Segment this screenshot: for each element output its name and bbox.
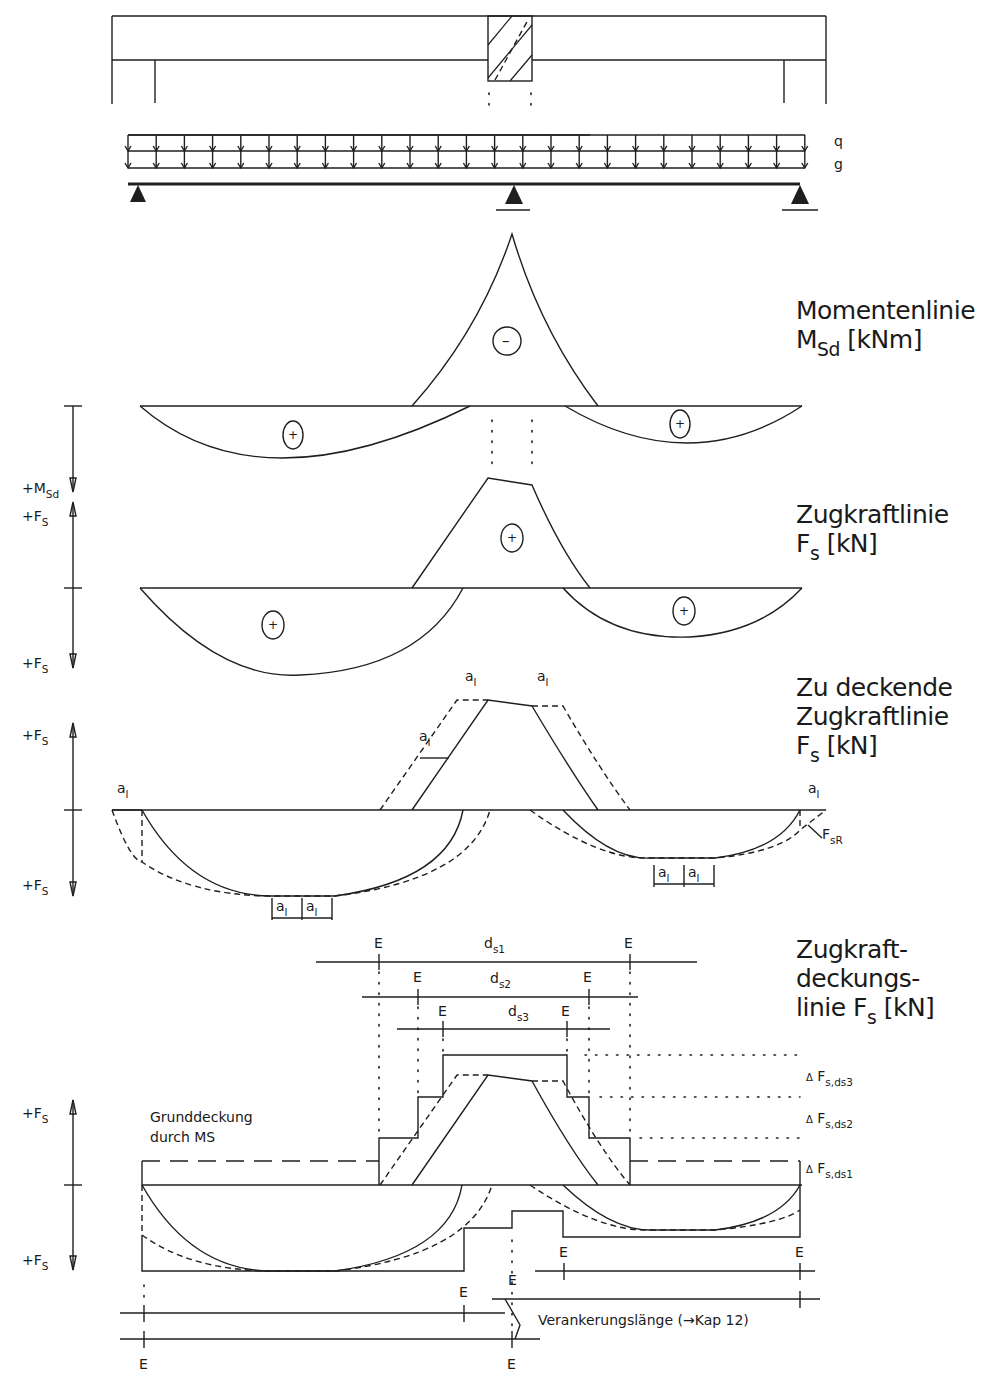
- bar-label-ds2: ds2: [490, 970, 511, 986]
- delta-label-ds2: Δ Fs,ds2: [806, 1110, 853, 1126]
- base-cover-note: Grunddeckung durch MS: [150, 1107, 253, 1147]
- end-marker: E: [583, 969, 592, 985]
- bar-label-ds1: ds1: [484, 935, 505, 951]
- to-cover-title: Zu deckende Zugkraftlinie Fs [kN]: [796, 673, 952, 762]
- shift-label: al: [465, 668, 477, 684]
- shift-label: al: [808, 780, 820, 796]
- moment-diagram: [140, 234, 802, 470]
- end-marker: E: [139, 1356, 148, 1372]
- end-marker: E: [559, 1244, 568, 1260]
- axis-label-msd: +MSd: [22, 480, 59, 496]
- shift-label: al: [306, 898, 318, 914]
- moment-title: Momentenlinie MSd [kNm]: [796, 296, 975, 356]
- static-system: [128, 184, 818, 210]
- shift-label: al: [117, 780, 129, 796]
- left-axes: [64, 406, 82, 1270]
- end-marker: E: [795, 1244, 804, 1260]
- end-marker: E: [624, 935, 633, 951]
- end-marker: E: [438, 1003, 447, 1019]
- end-marker: E: [374, 935, 383, 951]
- shift-label: al: [419, 728, 431, 744]
- load-label-g: g: [834, 156, 843, 172]
- distributed-load: [125, 135, 808, 168]
- shifted-tension-diagram: [112, 700, 826, 920]
- axis-label-fs: +FS: [22, 508, 48, 524]
- axis-label-fs: +FS: [22, 1252, 48, 1268]
- tension-title: Zugkraftlinie Fs [kN]: [796, 500, 949, 560]
- shift-label: al: [688, 864, 700, 880]
- bar-label-ds3: ds3: [508, 1003, 529, 1019]
- axis-label-fs: +FS: [22, 1105, 48, 1121]
- end-marker: E: [561, 1003, 570, 1019]
- shift-label: al: [276, 898, 288, 914]
- shift-label: al: [658, 864, 670, 880]
- load-label-q: q: [834, 133, 843, 149]
- end-marker: E: [413, 969, 422, 985]
- support-right-icon: [791, 185, 809, 204]
- tension-diagram: [140, 478, 802, 675]
- fsr-label: FsR: [822, 826, 843, 842]
- sign-negative: –: [502, 333, 510, 349]
- support-middle-icon: [505, 185, 523, 204]
- anchorage-note: Verankerungslänge (→Kap 12): [538, 1312, 749, 1328]
- delta-label-ds3: Δ Fs,ds3: [806, 1068, 853, 1084]
- support-left-icon: [130, 185, 146, 202]
- axis-label-fs: +FS: [22, 655, 48, 671]
- end-marker: E: [508, 1272, 517, 1288]
- shift-label: al: [537, 668, 549, 684]
- end-marker: E: [459, 1284, 468, 1300]
- coverage-diagram: [120, 954, 820, 1348]
- delta-label-ds1: Δ Fs,ds1: [806, 1160, 853, 1176]
- beam-elevation: [112, 16, 826, 108]
- axis-label-fs: +FS: [22, 727, 48, 743]
- end-marker: E: [507, 1356, 516, 1372]
- axis-label-fs: +FS: [22, 877, 48, 893]
- coverage-title: Zugkraft- deckungs- linie Fs [kN]: [796, 935, 934, 1024]
